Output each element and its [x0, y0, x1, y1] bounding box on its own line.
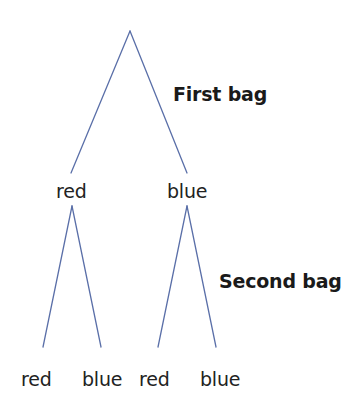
branch-red-to-red [43, 206, 72, 347]
tree-diagram [0, 0, 352, 409]
node-red-red: red [21, 370, 52, 389]
stage-label-first-bag: First bag [173, 85, 267, 104]
branch-root-to-red [71, 31, 130, 173]
branch-blue-to-red [158, 206, 187, 347]
node-blue-blue: blue [200, 370, 240, 389]
node-red-blue: blue [82, 370, 122, 389]
node-first-blue: blue [167, 182, 207, 201]
node-blue-red: red [139, 370, 170, 389]
branch-red-to-blue [72, 206, 101, 347]
branch-blue-to-blue [187, 206, 216, 347]
node-first-red: red [56, 182, 87, 201]
stage-label-second-bag: Second bag [219, 272, 342, 291]
